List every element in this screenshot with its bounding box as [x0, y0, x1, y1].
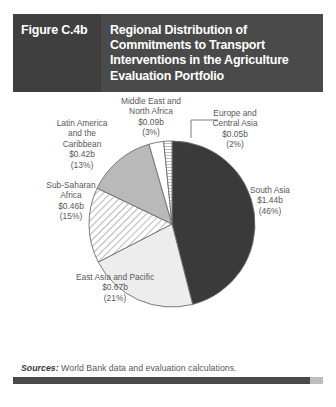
slice-label-sub-saharan-africa: Sub-SaharanAfrica$0.46b(15%): [29, 180, 113, 222]
slice-label-europe-central-asia: Europe andCentral Asia$0.05b(2%): [197, 108, 273, 150]
figure-card: Figure C.4b Regional Distribution of Com…: [13, 14, 323, 392]
figure-title: Regional Distribution of Commitments to …: [110, 23, 315, 84]
figure-number: Figure C.4b: [21, 23, 94, 37]
footer-rule: [13, 377, 323, 384]
figure-header: Figure C.4b Regional Distribution of Com…: [13, 14, 323, 92]
sources-label: Sources:: [21, 363, 59, 373]
slice-label-south-asia: South Asia$1.44b(46%): [227, 185, 313, 216]
slice-label-east-asia-pacific: East Asia and Pacific$0.67b(21%): [49, 272, 181, 303]
footer-rule-tail: [310, 377, 323, 384]
pie-chart-area: Middle East andNorth Africa$0.09b(3%) Eu…: [13, 92, 323, 354]
figure-title-panel: Regional Distribution of Commitments to …: [101, 14, 323, 92]
sources-text: World Bank data and evaluation calculati…: [61, 363, 236, 373]
figure-number-panel: Figure C.4b: [13, 14, 101, 92]
slice-label-latin-america-caribbean: Latin Americaand theCaribbean$0.42b(13%): [40, 118, 124, 170]
figure-footer: Sources: World Bank data and evaluation …: [13, 354, 323, 374]
